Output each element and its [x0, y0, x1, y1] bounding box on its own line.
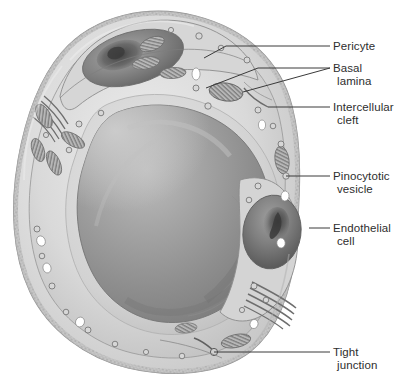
pinocytotic-vesicle — [246, 197, 252, 203]
label-pericyte-line1: Pericyte — [333, 40, 375, 52]
label-endothelial-cell-line1: Endothelial — [333, 222, 391, 234]
label-tight-junction-line1: Tight — [333, 346, 359, 358]
pinocytotic-vesicle — [270, 123, 276, 129]
label-intercellular-cleft-line2: cleft — [333, 114, 394, 127]
caveola — [258, 120, 265, 130]
label-pinocytotic-vesicle-line2: vesicle — [333, 183, 390, 196]
label-endothelial-cell: Endothelial cell — [333, 222, 391, 247]
pinocytotic-vesicle — [168, 27, 173, 32]
label-endothelial-cell-line2: cell — [333, 235, 391, 248]
pinocytotic-vesicle — [263, 297, 269, 303]
label-tight-junction-line2: junction — [333, 359, 377, 372]
pinocytotic-vesicle — [179, 353, 185, 359]
pinocytotic-vesicle — [112, 341, 118, 347]
pinocytotic-vesicle — [239, 307, 244, 312]
caveola — [276, 238, 285, 249]
pinocytotic-vesicle — [255, 107, 261, 113]
label-tight-junction: Tight junction — [333, 346, 377, 371]
label-pinocytotic-vesicle: Pinocytotic vesicle — [333, 170, 390, 195]
pinocytotic-vesicle — [66, 147, 72, 153]
pinocytotic-vesicle — [251, 283, 257, 289]
pinocytotic-vesicle — [196, 33, 202, 39]
label-basal-lamina: Basal lamina — [333, 62, 371, 87]
pinocytotic-vesicle — [143, 349, 148, 354]
pinocytotic-vesicle — [85, 327, 91, 333]
pinocytotic-vesicle — [43, 132, 48, 137]
pinocytotic-vesicle — [39, 253, 45, 259]
label-basal-lamina-line1: Basal — [333, 62, 362, 74]
label-intercellular-cleft-line1: Intercellular — [333, 101, 394, 113]
pinocytotic-vesicle — [63, 309, 69, 315]
pinocytotic-vesicle — [244, 57, 250, 63]
pinocytotic-vesicle — [34, 226, 40, 232]
pinocytotic-vesicle — [98, 110, 104, 116]
pinocytotic-vesicle — [76, 121, 82, 127]
label-pericyte: Pericyte — [333, 40, 375, 53]
pinocytotic-vesicle — [255, 183, 261, 189]
label-intercellular-cleft: Intercellular cleft — [333, 101, 394, 126]
pinocytotic-vesicle — [205, 103, 211, 109]
label-basal-lamina-line2: lamina — [333, 75, 371, 88]
pinocytotic-vesicle — [278, 141, 284, 147]
label-pinocytotic-vesicle-line1: Pinocytotic — [333, 170, 390, 182]
pinocytotic-vesicle — [49, 283, 55, 289]
caveola — [192, 68, 200, 80]
pinocytotic-vesicle — [193, 85, 199, 91]
